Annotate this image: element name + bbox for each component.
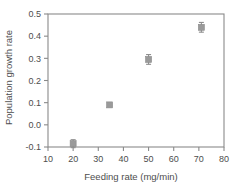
y-tick-label: 0.5: [28, 9, 41, 19]
x-tick-label: 50: [144, 154, 154, 164]
chart-figure: 1020304050607080-0.10.00.10.20.30.40.5 P…: [0, 0, 244, 183]
data-point-marker: [107, 102, 113, 108]
x-tick-label: 70: [194, 154, 204, 164]
data-point-marker: [70, 141, 76, 147]
y-tick-label: -0.1: [25, 142, 41, 152]
y-axis-label-text: Population growth rate: [4, 30, 15, 125]
x-tick-label: 10: [43, 154, 53, 164]
y-tick-label: 0.4: [28, 31, 41, 41]
x-tick-label: 60: [169, 154, 179, 164]
scatter-plot: 1020304050607080-0.10.00.10.20.30.40.5: [0, 0, 244, 183]
data-point-marker: [146, 56, 152, 62]
x-tick-label: 30: [93, 154, 103, 164]
y-tick-label: 0.0: [28, 120, 41, 130]
data-point-marker: [198, 24, 204, 30]
x-axis-label-text: Feeding rate (mg/min): [84, 171, 177, 182]
y-tick-label: 0.2: [28, 76, 41, 86]
plot-frame: [48, 14, 224, 147]
y-tick-label: 0.1: [28, 98, 41, 108]
x-tick-label: 20: [68, 154, 78, 164]
y-axis-label: Population growth rate: [0, 0, 18, 155]
y-tick-label: 0.3: [28, 54, 41, 64]
x-tick-label: 80: [219, 154, 229, 164]
x-tick-label: 40: [118, 154, 128, 164]
x-axis-label: Feeding rate (mg/min): [18, 166, 244, 183]
